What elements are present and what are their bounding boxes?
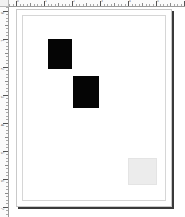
- ruler-tick: [6, 105, 8, 106]
- ruler-label: 0: [0, 12, 4, 14]
- ruler-tick: [6, 77, 8, 78]
- ruler-tick: [142, 3, 143, 6]
- ruler-tick: [6, 203, 8, 204]
- ruler-label: 2: [0, 68, 4, 70]
- ruler-tick: [6, 98, 8, 99]
- ruler-tick: [6, 147, 8, 148]
- ruler-tick: [13, 4, 14, 6]
- ruler-tick: [121, 4, 122, 6]
- ruler-tick: [6, 161, 8, 162]
- ruler-tick: [6, 28, 8, 29]
- ruler-tick: [125, 4, 126, 6]
- ruler-tick: [6, 42, 8, 43]
- ruler-tick: [104, 4, 105, 6]
- ruler-tick: [62, 4, 63, 6]
- ruler-tick: [6, 63, 8, 64]
- ruler-tick: [6, 112, 8, 113]
- ruler-tick: [6, 130, 8, 131]
- ruler-tick: [149, 4, 150, 6]
- ruler-tick: [107, 4, 108, 6]
- ruler-tick: [65, 4, 66, 6]
- document-canvas[interactable]: [9, 7, 185, 217]
- ruler-tick: [135, 4, 136, 6]
- ruler-tick: [139, 4, 140, 6]
- ruler-tick: [5, 53, 8, 54]
- ruler-tick: [177, 4, 178, 6]
- ruler-tick: [6, 140, 8, 141]
- ruler-label: 3: [101, 0, 103, 3]
- ruler-label: 1: [45, 0, 47, 3]
- ruler-tick: [181, 4, 182, 6]
- ruler-tick: [6, 18, 8, 19]
- ruler-tick: [174, 4, 175, 6]
- ruler-tick: [5, 165, 8, 166]
- ruler-tick: [160, 4, 161, 6]
- ruler-tick: [6, 35, 8, 36]
- ruler-tick: [5, 137, 8, 138]
- vertical-ruler[interactable]: 01234567: [0, 7, 9, 217]
- ruler-label: 0: [17, 0, 19, 3]
- ruler-tick: [97, 4, 98, 6]
- ruler-tick: [6, 210, 8, 211]
- ruler-tick: [76, 4, 77, 6]
- ruler-tick: [6, 32, 8, 33]
- ruler-tick: [34, 4, 35, 6]
- ruler-tick: [48, 4, 49, 6]
- ruler-tick: [6, 119, 8, 120]
- ruler-tick: [6, 186, 8, 187]
- ruler-origin-corner[interactable]: [0, 0, 9, 7]
- ruler-tick: [6, 102, 8, 103]
- ruler-tick: [93, 4, 94, 6]
- empty-frame-1[interactable]: [128, 158, 157, 185]
- image-frame-2[interactable]: [73, 76, 99, 108]
- ruler-tick: [83, 4, 84, 6]
- ruler-label: 4: [0, 124, 4, 126]
- ruler-tick: [30, 3, 31, 6]
- ruler-tick: [27, 4, 28, 6]
- image-frame-1[interactable]: [48, 39, 72, 69]
- ruler-tick: [163, 4, 164, 6]
- ruler-tick: [6, 7, 8, 8]
- ruler-label: 4: [129, 0, 131, 3]
- ruler-tick: [167, 4, 168, 6]
- ruler-tick: [6, 116, 8, 117]
- ruler-tick: [6, 84, 8, 85]
- ruler-tick: [118, 4, 119, 6]
- ruler-tick: [6, 60, 8, 61]
- ruler-tick: [6, 91, 8, 92]
- ruler-tick: [6, 168, 8, 169]
- ruler-tick: [6, 172, 8, 173]
- ruler-tick: [6, 88, 8, 89]
- ruler-tick: [153, 4, 154, 6]
- ruler-tick: [6, 56, 8, 57]
- ruler-tick: [69, 4, 70, 6]
- ruler-tick: [58, 3, 59, 6]
- ruler-label: 5: [157, 0, 159, 3]
- page-layout-canvas-window: 012345 01234567: [0, 0, 185, 217]
- ruler-tick: [6, 182, 8, 183]
- ruler-tick: [184, 1, 185, 6]
- horizontal-ruler[interactable]: 012345: [9, 0, 185, 7]
- ruler-tick: [6, 21, 8, 22]
- ruler-tick: [6, 196, 8, 197]
- ruler-tick: [6, 133, 8, 134]
- ruler-label: 3: [0, 96, 4, 98]
- ruler-label: 2: [73, 0, 75, 3]
- ruler-tick: [37, 4, 38, 6]
- ruler-tick: [114, 3, 115, 6]
- document-page[interactable]: [16, 9, 172, 207]
- ruler-tick: [6, 126, 8, 127]
- ruler-tick: [9, 4, 10, 6]
- ruler-label: 6: [0, 180, 4, 182]
- ruler-tick: [6, 46, 8, 47]
- ruler-tick: [41, 4, 42, 6]
- ruler-tick: [6, 14, 8, 15]
- ruler-tick: [79, 4, 80, 6]
- ruler-tick: [6, 175, 8, 176]
- ruler-tick: [146, 4, 147, 6]
- ruler-tick: [6, 70, 8, 71]
- ruler-tick: [6, 144, 8, 145]
- ruler-label: 5: [0, 152, 4, 154]
- ruler-tick: [23, 4, 24, 6]
- ruler-tick: [6, 49, 8, 50]
